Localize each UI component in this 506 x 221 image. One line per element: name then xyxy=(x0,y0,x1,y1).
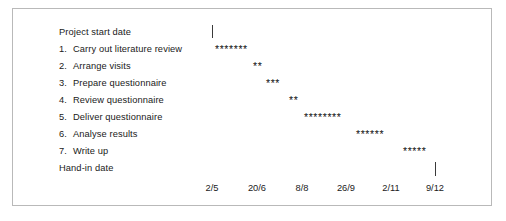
task-bar-3: *** xyxy=(266,75,280,91)
project-start-label: Project start date xyxy=(59,24,131,40)
axis-tick-label-2: 20/6 xyxy=(248,182,266,194)
hand-in-tick-icon xyxy=(435,162,436,176)
axis-tick-label-6: 9/12 xyxy=(426,182,444,194)
task-row-5: 5. Deliver questionnaire ******** xyxy=(13,109,491,125)
task-bar-1: ******* xyxy=(215,41,248,57)
task-number-2: 2. xyxy=(59,58,67,74)
task-label-1: Carry out literature review xyxy=(73,41,182,57)
task-label-4: Review questionnaire xyxy=(73,92,164,108)
task-bar-4: ** xyxy=(289,92,298,108)
task-label-2: Arrange visits xyxy=(73,58,131,74)
task-row-7: 7. Write up ***** xyxy=(13,143,491,159)
task-row-4: 4. Review questionnaire ** xyxy=(13,92,491,108)
task-bar-7: ***** xyxy=(403,143,426,159)
task-label-5: Deliver questionnaire xyxy=(73,109,162,125)
task-label-6: Analyse results xyxy=(73,126,138,142)
task-number-4: 4. xyxy=(59,92,67,108)
hand-in-row: Hand-in date xyxy=(13,160,491,176)
task-bar-5: ******** xyxy=(304,109,342,125)
task-label-7: Write up xyxy=(73,143,108,159)
task-bar-2: ** xyxy=(253,58,262,74)
task-row-6: 6. Analyse results ****** xyxy=(13,126,491,142)
axis-tick-label-4: 26/9 xyxy=(337,182,355,194)
axis-tick-label-5: 2/11 xyxy=(382,182,399,194)
project-start-row: Project start date xyxy=(13,24,491,40)
task-label-3: Prepare questionnaire xyxy=(73,75,167,91)
task-number-5: 5. xyxy=(59,109,67,125)
task-number-7: 7. xyxy=(59,143,67,159)
task-number-1: 1. xyxy=(59,41,67,57)
task-bar-6: ****** xyxy=(356,126,384,142)
gantt-chart-frame: Project start date 1. Carry out literatu… xyxy=(12,8,492,206)
task-row-3: 3. Prepare questionnaire *** xyxy=(13,75,491,91)
axis-tick-label-3: 8/8 xyxy=(296,182,309,194)
task-number-6: 6. xyxy=(59,126,67,142)
task-row-1: 1. Carry out literature review ******* xyxy=(13,41,491,57)
hand-in-label: Hand-in date xyxy=(59,160,113,176)
task-row-2: 2. Arrange visits ** xyxy=(13,58,491,74)
axis-tick-label-1: 2/5 xyxy=(206,182,219,194)
project-start-tick-icon xyxy=(212,25,213,38)
task-number-3: 3. xyxy=(59,75,67,91)
